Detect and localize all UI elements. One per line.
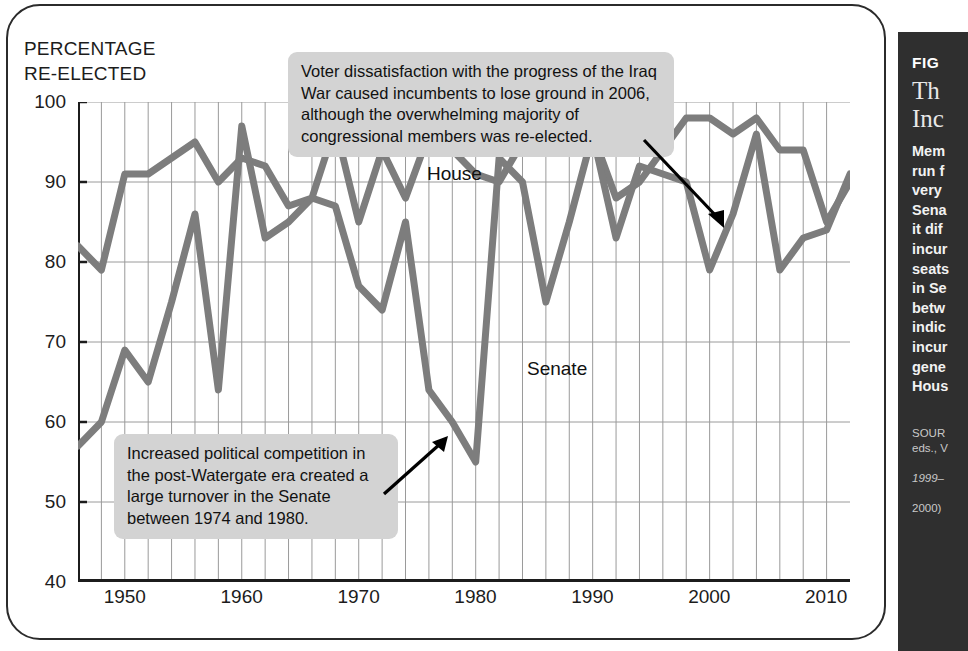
y-tick-100: 100 (34, 91, 66, 113)
figure-page: PERCENTAGE RE-ELECTED 100 90 80 70 60 50… (0, 0, 968, 651)
y-tick-50: 50 (45, 491, 66, 513)
sidebar-source-line4: 2000) (912, 501, 968, 516)
annotation-post-watergate: Increased political competition in the p… (114, 434, 398, 539)
x-tick-2000: 2000 (688, 586, 730, 608)
x-tick-1960: 1960 (221, 586, 263, 608)
y-axis-tick-labels: 100 90 80 70 60 50 40 (0, 102, 74, 582)
y-tick-40: 40 (45, 571, 66, 593)
y-tick-60: 60 (45, 411, 66, 433)
x-tick-1950: 1950 (104, 586, 146, 608)
x-tick-1970: 1970 (337, 586, 379, 608)
y-tick-70: 70 (45, 331, 66, 353)
sidebar-source-line2: eds., V (912, 441, 968, 456)
y-tick-90: 90 (45, 171, 66, 193)
x-tick-2010: 2010 (805, 586, 847, 608)
x-tick-1990: 1990 (571, 586, 613, 608)
annotation-iraq-war: Voter dissatisfaction with the progress … (288, 52, 674, 157)
sidebar-source-line3: 1999– (912, 471, 968, 486)
sidebar-body-text: Mem run f very Sena it dif incur seats i… (912, 142, 968, 397)
sidebar-figure-label: FIG (912, 54, 968, 72)
sidebar-source: SOUR eds., V 1999– 2000) (912, 411, 968, 531)
y-tick-80: 80 (45, 251, 66, 273)
series-label-senate: Senate (527, 358, 587, 380)
sidebar-source-label: SOUR (912, 427, 945, 439)
sidebar-title: Th Inc (912, 77, 968, 133)
y-axis-title: PERCENTAGE RE-ELECTED (24, 36, 156, 86)
series-label-house: House (427, 163, 482, 185)
x-tick-1980: 1980 (454, 586, 496, 608)
figure-sidebar: FIG Th Inc Mem run f very Sena it dif in… (898, 32, 968, 651)
page-gutter (886, 0, 898, 651)
x-axis-tick-labels: 1950 1960 1970 1980 1990 2000 2010 (78, 586, 868, 616)
